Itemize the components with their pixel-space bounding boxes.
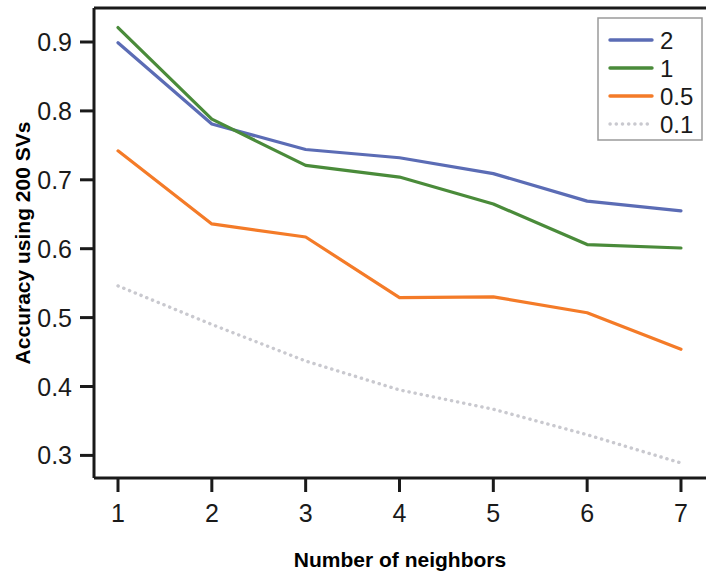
legend-label-3: 0.1: [660, 111, 693, 138]
legend-label-1: 1: [660, 55, 673, 82]
x-tick-label: 7: [674, 499, 688, 527]
y-tick-label: 0.3: [37, 441, 72, 469]
x-tick-label: 4: [393, 499, 407, 527]
line-chart: 0.30.40.50.60.70.80.9 1234567 Number of …: [0, 0, 706, 581]
x-tick-label: 6: [580, 499, 594, 527]
x-tick-label: 2: [205, 499, 219, 527]
y-tick-label: 0.7: [37, 166, 72, 194]
y-tick-label: 0.6: [37, 235, 72, 263]
chart-legend[interactable]: 210.50.1: [598, 18, 702, 140]
legend-label-0: 2: [660, 27, 673, 54]
x-axis-title: Number of neighbors: [294, 548, 506, 571]
y-axis-title: Accuracy using 200 SVs: [11, 122, 34, 365]
x-tick-label: 5: [486, 499, 500, 527]
x-tick-label: 3: [299, 499, 313, 527]
x-tick-label: 1: [111, 499, 125, 527]
y-tick-label: 0.4: [37, 373, 72, 401]
y-tick-label: 0.8: [37, 97, 72, 125]
chart-container: 0.30.40.50.60.70.80.9 1234567 Number of …: [0, 0, 706, 581]
y-tick-label: 0.5: [37, 304, 72, 332]
y-tick-label: 0.9: [37, 28, 72, 56]
legend-label-2: 0.5: [660, 83, 693, 110]
